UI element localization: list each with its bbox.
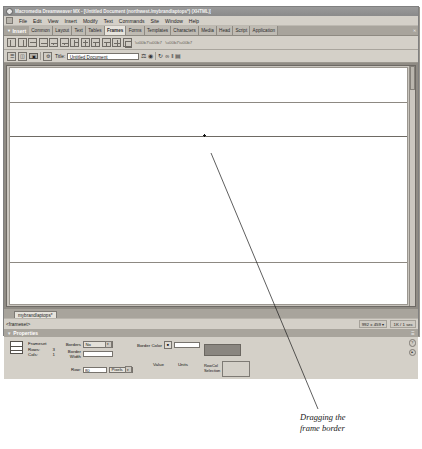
chevron-down-icon[interactable]: ▾ (105, 341, 112, 348)
tab-text[interactable]: Text (72, 26, 86, 35)
rowcol-selection-label: RowCol Selection (204, 364, 220, 373)
document-tab-row: mybrandlaptops* (4, 309, 418, 318)
annotation-line-2: frame border (300, 423, 415, 434)
tab-forms[interactable]: Forms (126, 26, 144, 35)
reference-icon[interactable]: ∞ (165, 53, 169, 59)
frame-border-middle[interactable] (10, 136, 407, 137)
rowcol-selection-widget[interactable] (222, 361, 250, 377)
menu-item-file[interactable]: File (16, 18, 30, 24)
tab-common[interactable]: Common (29, 26, 53, 35)
frame-right-nested-top-icon[interactable] (81, 38, 90, 47)
menu-item-view[interactable]: View (45, 18, 62, 24)
borders-select[interactable]: No ▾ (83, 341, 113, 348)
border-color-row: Border Color ■ (137, 341, 200, 349)
chevron-down-icon[interactable]: ▾ (125, 366, 132, 373)
menu-item-modify[interactable]: Modify (80, 18, 101, 24)
document-tab[interactable]: mybrandlaptops* (14, 311, 57, 318)
frameset-preview[interactable] (9, 67, 408, 305)
design-view-icon[interactable]: ▣ (29, 53, 38, 60)
menu-item-insert[interactable]: Insert (61, 18, 80, 24)
color-picker-icon[interactable]: ■ (164, 341, 172, 349)
frame-top-icon[interactable] (28, 38, 37, 47)
code-navigation-icon[interactable]: ‖ (171, 53, 173, 59)
frame-top-nested-right-icon[interactable] (102, 38, 111, 47)
properties-panel-title: Properties (13, 330, 38, 336)
borders-group: Borders No ▾ Border Width Row: 80 Pixels… (59, 339, 133, 377)
frame-left-nested-top-icon[interactable] (70, 38, 79, 47)
chevron-down-icon[interactable]: ▼ (7, 331, 11, 336)
frame-right-icon[interactable] (18, 38, 27, 47)
menu-item-window[interactable]: Window (162, 18, 186, 24)
menu-item-help[interactable]: Help (186, 18, 202, 24)
menu-item-commands[interactable]: Commands (116, 18, 148, 24)
units-select[interactable]: Pixels ▾ (109, 367, 133, 374)
border-width-input[interactable] (83, 351, 113, 357)
vertical-scrollbar[interactable] (409, 66, 415, 306)
live-data-icon[interactable]: ⚙ (43, 52, 52, 61)
document-toolbar: ☰ ◫ ▣ ⚙ Title: Untitled Document ⚖ ◉ ↻ ∞… (4, 50, 418, 63)
frame-bottom-nested-left-icon[interactable] (49, 38, 58, 47)
rowcol-group: RowCol Selection (204, 339, 250, 377)
tab-layout[interactable]: Layout (53, 26, 72, 35)
tab-templates[interactable]: Templates (145, 26, 171, 35)
rowcol-selection-row: RowCol Selection (204, 361, 250, 377)
tab-head[interactable]: Head (217, 26, 233, 35)
border-color-group: Border Color ■ Value Units (137, 339, 200, 377)
page-title-input[interactable]: Untitled Document (67, 53, 139, 60)
menu-item-site[interactable]: Site (147, 18, 162, 24)
window-size-value: 992 x 459 (362, 322, 381, 327)
menu-item-edit[interactable]: Edit (30, 18, 45, 24)
rows-label: Rows: (28, 347, 42, 352)
insert-panel-header: ▼ Insert Common Layout Text Tables Frame… (4, 26, 418, 36)
help-icon[interactable]: ? (409, 339, 417, 347)
toolbar-overflow-icon[interactable]: \u00b7\u00b7 (135, 40, 162, 45)
frame-all-icon[interactable] (123, 38, 132, 47)
border-width-row: Border Width (59, 349, 133, 359)
chevron-down-icon[interactable]: ▾ (382, 322, 384, 327)
preview-in-browser-icon[interactable]: ◉ (148, 53, 153, 59)
chevron-down-icon[interactable]: ▼ (7, 28, 11, 33)
rows-value: 3 (45, 347, 55, 352)
tag-selector[interactable]: <frameset> (6, 322, 359, 327)
system-menu-icon[interactable] (6, 17, 13, 24)
tab-media[interactable]: Media (199, 26, 217, 35)
close-icon[interactable]: ✕ (410, 26, 418, 35)
code-view-icon[interactable]: ☰ (7, 52, 16, 61)
tab-application[interactable]: Application (250, 26, 278, 35)
refresh-design-view-icon[interactable]: ↻ (158, 53, 163, 59)
borders-row: Borders No ▾ (59, 341, 133, 348)
window-size-indicator[interactable]: 992 x 459 ▾ (359, 320, 388, 328)
menu-item-text[interactable]: Text (101, 18, 116, 24)
view-options-icon[interactable]: ▤ (175, 53, 181, 59)
frame-left-icon[interactable] (7, 38, 16, 47)
file-management-icon[interactable]: ⚖ (141, 53, 146, 59)
tab-frames[interactable]: Frames (105, 26, 127, 35)
border-color-preview (204, 344, 241, 356)
panel-menu-icon[interactable]: ☰ (411, 331, 415, 336)
tab-script[interactable]: Script (233, 26, 250, 35)
tab-characters[interactable]: Characters (171, 26, 199, 35)
row-value-input[interactable]: 80 (83, 367, 107, 373)
document-canvas-area (4, 63, 418, 309)
frame-top-nested-left-icon[interactable] (91, 38, 100, 47)
frame-bottom-icon[interactable] (39, 38, 48, 47)
border-width-label: Border Width (59, 349, 81, 359)
value-column-header: Value (153, 362, 164, 367)
scrollbar-thumb[interactable] (410, 66, 415, 90)
frame-bottom-nested-right-icon[interactable] (60, 38, 69, 47)
collapse-icon[interactable]: ▴ (409, 349, 417, 357)
object-type-row: Frameset (28, 341, 55, 346)
split-view-icon[interactable]: ◫ (18, 52, 27, 61)
row-label: Row: (59, 367, 81, 372)
frame-split-icon[interactable] (112, 38, 121, 47)
insert-panel-title-group[interactable]: ▼ Insert (4, 26, 29, 35)
frame-border-drag-handle[interactable] (203, 134, 206, 137)
tab-tables[interactable]: Tables (86, 26, 105, 35)
frame-border-bottom[interactable] (10, 262, 407, 263)
toolbar-help-icon[interactable]: \u00b7\u00b7 (165, 40, 192, 45)
frame-border-top[interactable] (10, 102, 407, 103)
dreamweaver-window: Macromedia Dreamweaver MX - [Untitled Do… (3, 6, 419, 336)
properties-panel-header: ▼ Properties ☰ (4, 329, 418, 337)
title-bar: Macromedia Dreamweaver MX - [Untitled Do… (4, 7, 418, 16)
border-color-input[interactable] (174, 342, 200, 348)
